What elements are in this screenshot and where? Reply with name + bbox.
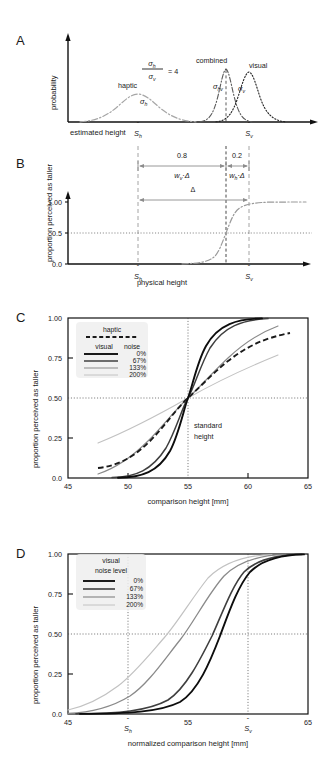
panel-d-legend-label-0: 0% bbox=[133, 577, 143, 584]
panel-d-legend-header-1: visual bbox=[102, 557, 120, 564]
panel-c-y-label: proportion perceived as taller bbox=[31, 370, 40, 468]
panel-d-xtick-label-5: 65 bbox=[304, 718, 312, 727]
panel-a-marker-sv: ˆ Sv bbox=[245, 120, 253, 139]
panel-c: C 1.00 0.75 0.50 0.25 0.0 proportion per… bbox=[0, 296, 324, 532]
panel-a-marker-sh: ˆ Sh bbox=[134, 120, 142, 139]
panel-b-wv-arrow-left bbox=[139, 164, 144, 168]
panel-c-ytick-label-4: 0.25 bbox=[48, 434, 62, 443]
panel-a-y-label: probability bbox=[49, 75, 58, 110]
panel-c-chart: C 1.00 0.75 0.50 0.25 0.0 proportion per… bbox=[0, 296, 324, 532]
panel-d-x-ticks: 45 ˆ Sh 55 ˆ Sv 65 bbox=[64, 716, 312, 734]
panel-a-ratio-denominator: σv bbox=[148, 72, 155, 82]
panel-b-ytick-label-2: 0.5 bbox=[52, 229, 62, 238]
panel-c-legend-label-2: 133% bbox=[129, 364, 146, 371]
panel-b-wv-arrow-right bbox=[220, 164, 225, 168]
panel-b-letter: B bbox=[16, 156, 25, 171]
panel-a-sigma-v: σv bbox=[238, 84, 245, 94]
panel-b-x-label: physical height bbox=[137, 278, 188, 287]
panel-d-ytick-label-1: 1.00 bbox=[48, 550, 62, 559]
panel-c-xtick-label-5: 65 bbox=[304, 482, 312, 491]
panel-b-wh-value: 0.2 bbox=[232, 151, 242, 160]
figure-container: A probability estimated height haptic σh… bbox=[0, 0, 324, 760]
panel-a-x-arrow bbox=[310, 119, 318, 124]
panel-d-y-ticks: 1.00 0.75 0.50 0.25 0.0 bbox=[48, 550, 73, 719]
panel-c-x-label: comparison height [mm] bbox=[147, 497, 228, 506]
panel-d-y-label: proportion perceived as taller bbox=[31, 606, 40, 704]
panel-d-ytick-label-4: 0.25 bbox=[48, 670, 62, 679]
panel-b-delta-arrow: Δ bbox=[139, 185, 248, 202]
panel-b-wv-value: 0.8 bbox=[177, 151, 187, 160]
panel-d-legend: visual noise level 0% 67% 133% 200% bbox=[76, 554, 146, 610]
panel-b-ytick-label-1: 1.00 bbox=[48, 198, 62, 207]
panel-a-ratio-numerator: σh bbox=[148, 59, 155, 69]
panel-b-marker-sh: ˆ Sh bbox=[134, 263, 142, 282]
panel-c-letter: C bbox=[16, 310, 25, 325]
panel-a-label-sh: Sh bbox=[134, 129, 142, 139]
panel-c-annotation-line2: height bbox=[194, 432, 214, 441]
panel-a-curve-haptic bbox=[80, 94, 196, 122]
panel-d-legend-label-3: 200% bbox=[126, 601, 143, 608]
panel-d-xtick-label-2: Sh bbox=[124, 724, 132, 734]
panel-c-xtick-label-4: 60 bbox=[244, 482, 252, 491]
panel-c-ytick-label-5: 0.0 bbox=[52, 474, 62, 483]
panel-d-xtick-label-4: Sv bbox=[244, 724, 252, 734]
panel-a-x-label: estimated height bbox=[70, 128, 127, 137]
panel-a-label-haptic: haptic bbox=[118, 81, 138, 90]
panel-b-wv-expr: wv·Δ bbox=[174, 171, 189, 181]
panel-c-legend: haptic visual noise 0% 67% 133% 200% bbox=[76, 322, 148, 378]
panel-c-xtick-label-1: 45 bbox=[64, 482, 72, 491]
panel-a-chart: A probability estimated height haptic σh… bbox=[0, 0, 324, 150]
panel-c-x-ticks: 45 50 55 60 65 bbox=[64, 473, 312, 491]
panel-d-ytick-label-5: 0.0 bbox=[52, 710, 62, 719]
panel-c-legend-label-3: 200% bbox=[129, 371, 146, 378]
panel-c-y-ticks: 1.00 0.75 0.50 0.25 0.0 bbox=[48, 314, 73, 483]
panel-b-label-sv: Sv bbox=[245, 272, 253, 282]
panel-a-sigma-hv: σhv bbox=[213, 82, 223, 92]
panel-d-legend-header-2: noise level bbox=[95, 567, 128, 574]
panel-a-curve-visual bbox=[216, 72, 286, 122]
panel-a: A probability estimated height haptic σh… bbox=[0, 0, 324, 150]
panel-c-ytick-label-2: 0.75 bbox=[48, 354, 62, 363]
panel-d-chart: D 1.00 0.75 0.50 0.25 0.0 proportion per… bbox=[0, 532, 324, 760]
panel-b-x-arrow bbox=[303, 261, 311, 266]
panel-c-legend-haptic-label: haptic bbox=[103, 326, 122, 334]
panel-a-letter: A bbox=[16, 33, 25, 48]
panel-c-legend-visual-header: visual bbox=[95, 343, 113, 350]
panel-b-ytick-label-3: 0.0 bbox=[52, 260, 62, 269]
panel-c-legend-label-1: 67% bbox=[133, 357, 146, 364]
panel-a-ratio-equation: σh σv = 4 bbox=[142, 59, 178, 82]
panel-b-curve-combined bbox=[182, 202, 306, 264]
panel-a-label-visual: visual bbox=[249, 61, 268, 70]
panel-c-ytick-label-3: 0.50 bbox=[48, 394, 62, 403]
panel-b-chart: B 0.8 wv·Δ 0.2 wh·Δ bbox=[0, 144, 324, 304]
panel-d-legend-label-2: 133% bbox=[126, 593, 143, 600]
panel-c-annotation-line1: standard bbox=[194, 421, 222, 430]
panel-c-standard-height-annotation: standard height bbox=[194, 421, 222, 441]
panel-d-xtick-label-3: 55 bbox=[184, 718, 192, 727]
panel-b-delta-arrow-right bbox=[243, 198, 248, 202]
panel-d-letter: D bbox=[16, 546, 25, 561]
panel-b-delta-arrow-left bbox=[139, 198, 144, 202]
panel-c-ytick-label-1: 1.00 bbox=[48, 314, 62, 323]
panel-d: D 1.00 0.75 0.50 0.25 0.0 proportion per… bbox=[0, 532, 324, 760]
panel-b-wh-arrow-right bbox=[243, 164, 248, 168]
panel-d-ytick-label-3: 0.50 bbox=[48, 630, 62, 639]
panel-c-legend-label-0: 0% bbox=[136, 350, 146, 357]
panel-a-y-arrow bbox=[65, 33, 70, 41]
panel-b-marker-sv: ˆ Sv bbox=[245, 263, 253, 282]
panel-b-wh-expr: wh·Δ bbox=[229, 171, 245, 181]
panel-a-label-sv: Sv bbox=[245, 129, 253, 139]
panel-b-y-label: proportion perceived as taller bbox=[45, 164, 54, 262]
panel-d-ytick-label-2: 0.75 bbox=[48, 590, 62, 599]
panel-c-legend-noise-header: noise bbox=[124, 343, 140, 350]
panel-c-xtick-label-3: 55 bbox=[184, 482, 192, 491]
panel-a-sigma-h: σh bbox=[140, 97, 147, 107]
panel-d-xtick-label-1: 45 bbox=[64, 718, 72, 727]
panel-d-x-label: normalized comparison height [mm] bbox=[128, 739, 248, 748]
panel-a-ratio-equals: = 4 bbox=[168, 67, 178, 76]
panel-b-label-sh: Sh bbox=[134, 272, 142, 282]
panel-b-wh-arrow-left bbox=[227, 164, 232, 168]
panel-d-legend-label-1: 67% bbox=[130, 585, 143, 592]
panel-a-label-combined: combined bbox=[196, 56, 227, 65]
panel-b-delta-label: Δ bbox=[191, 185, 196, 194]
